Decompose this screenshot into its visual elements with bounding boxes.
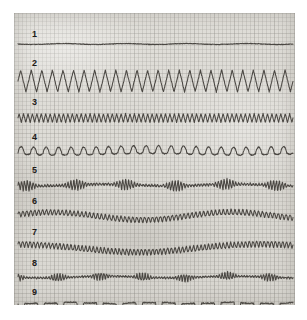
trace-label-2: 2 — [32, 59, 37, 68]
trace-label-4: 4 — [32, 133, 37, 142]
trace-label-7: 7 — [32, 228, 37, 237]
trace-line-7 — [18, 241, 293, 255]
trace-line-8 — [18, 271, 293, 282]
trace-line-9 — [18, 302, 293, 305]
trace-line-4 — [18, 145, 293, 155]
trace-label-9: 9 — [32, 288, 37, 297]
trace-label-6: 6 — [32, 197, 37, 206]
trace-plot-area — [14, 13, 295, 305]
trace-line-3 — [18, 113, 293, 122]
trace-label-8: 8 — [32, 259, 37, 268]
chart-paper-panel: 123456789 — [14, 13, 295, 305]
trace-label-3: 3 — [32, 98, 37, 107]
trace-line-6 — [18, 209, 293, 223]
recording-figure: 123456789 — [0, 0, 307, 320]
trace-label-1: 1 — [32, 30, 37, 39]
trace-line-1 — [18, 43, 293, 44]
trace-line-2 — [18, 70, 293, 93]
trace-label-5: 5 — [32, 166, 37, 175]
trace-line-5 — [18, 178, 293, 191]
